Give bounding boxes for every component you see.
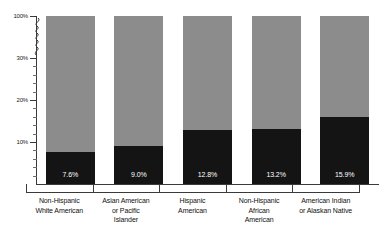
- category-divider: [292, 184, 293, 193]
- bar-segment-remainder: [183, 16, 232, 130]
- bar-column: 7.6%: [46, 16, 95, 184]
- bar-value-label: 12.8%: [183, 170, 232, 179]
- bar-value-label: 9.0%: [114, 170, 163, 179]
- category-divider: [26, 184, 27, 193]
- category-box-line: [26, 192, 359, 193]
- bar-segment-value: 9.0%: [114, 146, 163, 184]
- category-label-line: African: [228, 206, 291, 216]
- category-label: Non-HispanicAfricanAmerican: [228, 196, 291, 225]
- bar-segment-remainder: [114, 16, 163, 146]
- category-divider: [159, 184, 160, 193]
- y-axis-tick-label: 100%: [13, 12, 28, 20]
- plot-area: 7.6%9.0%12.8%13.2%15.9%: [36, 16, 379, 184]
- bar-column: 13.2%: [252, 16, 301, 184]
- category-label-line: Asian American: [95, 196, 158, 206]
- bar-column: 9.0%: [114, 16, 163, 184]
- bar-segment-value: 7.6%: [46, 152, 95, 184]
- bar-segment-value: 13.2%: [252, 129, 301, 184]
- category-label: American Indianor Alaskan Native: [294, 196, 357, 215]
- category-label-line: Non-Hispanic: [228, 196, 291, 206]
- bar-column: 12.8%: [183, 16, 232, 184]
- bar-value-label: 13.2%: [252, 170, 301, 179]
- bar-column: 15.9%: [320, 16, 369, 184]
- y-axis-tick-label: 20%: [17, 96, 28, 104]
- category-label-line: White American: [28, 206, 91, 216]
- bar-segment-remainder: [252, 16, 301, 129]
- x-axis-baseline: [36, 184, 379, 185]
- category-label-line: American: [161, 206, 224, 216]
- category-label-line: or Alaskan Native: [294, 206, 357, 216]
- bar-value-label: 7.6%: [46, 170, 95, 179]
- bar-value-label: 15.9%: [320, 170, 369, 179]
- category-label-line: or Pacific: [95, 206, 158, 216]
- bar-segment-remainder: [320, 16, 369, 117]
- y-axis-tick-label: 30%: [17, 54, 28, 62]
- category-label-line: Non-Hispanic: [28, 196, 91, 206]
- category-label-line: American: [228, 215, 291, 225]
- category-divider: [359, 184, 360, 193]
- category-label: Non-HispanicWhite American: [28, 196, 91, 215]
- y-axis-tick-label: 10%: [17, 138, 28, 146]
- category-label: HispanicAmerican: [161, 196, 224, 215]
- category-label-line: Islander: [95, 215, 158, 225]
- category-label: Asian Americanor PacificIslander: [95, 196, 158, 225]
- stacked-bar-chart: 100%30%20%10% 7.6%9.0%12.8%13.2%15.9% No…: [0, 0, 385, 232]
- category-label-line: Hispanic: [161, 196, 224, 206]
- category-label-line: American Indian: [294, 196, 357, 206]
- category-divider: [226, 184, 227, 193]
- category-divider: [93, 184, 94, 193]
- bar-segment-value: 15.9%: [320, 117, 369, 184]
- bar-segment-remainder: [46, 16, 95, 152]
- bar-segment-value: 12.8%: [183, 130, 232, 184]
